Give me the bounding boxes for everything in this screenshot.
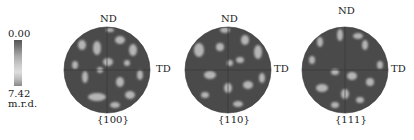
pf1-right-label: TD bbox=[156, 64, 171, 74]
pf3-right-label: TD bbox=[391, 64, 406, 74]
pole-figure-110 bbox=[185, 27, 271, 113]
pf2-right-label: TD bbox=[274, 64, 289, 74]
pf1-top-label: ND bbox=[100, 14, 117, 24]
pf2-caption: {110} bbox=[218, 115, 250, 125]
pf1-caption: {100} bbox=[97, 115, 129, 125]
pf3-top-label: ND bbox=[338, 6, 355, 16]
pole-figure-100 bbox=[64, 27, 150, 113]
pole-figure-111 bbox=[302, 27, 388, 113]
pf3-caption: {111} bbox=[335, 115, 367, 125]
pf2-top-label: ND bbox=[221, 14, 238, 24]
